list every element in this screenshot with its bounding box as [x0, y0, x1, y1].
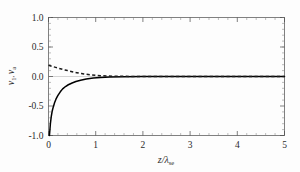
- x-axis-tick-labels: 012345: [46, 140, 287, 150]
- x-axis-title: z/λse: [157, 154, 175, 166]
- x-tick-label: 4: [235, 140, 240, 150]
- chart-canvas: 012345 -1.0-0.50.00.51.0 z/λse v1, va: [0, 0, 300, 172]
- x-tick-label: 0: [46, 140, 51, 150]
- figure-container: 012345 -1.0-0.50.00.51.0 z/λse v1, va: [0, 0, 300, 172]
- y-tick-label: 1.0: [32, 13, 44, 23]
- y-tick-label: -1.0: [28, 131, 43, 141]
- y-tick-label: 0.0: [32, 72, 44, 82]
- series-v-a: [49, 65, 285, 76]
- data-series-group: [49, 65, 285, 135]
- svg-text:v1, va: v1, va: [5, 67, 17, 85]
- x-tick-label: 1: [93, 140, 98, 150]
- y-tick-label: -0.5: [28, 101, 43, 111]
- x-tick-label: 3: [188, 140, 193, 150]
- y-tick-label: 0.5: [32, 42, 44, 52]
- x-tick-label: 2: [141, 140, 146, 150]
- y-axis-tick-labels: -1.0-0.50.00.51.0: [28, 13, 43, 141]
- svg-text:z/λse: z/λse: [157, 154, 175, 166]
- y-axis-title: v1, va: [5, 67, 17, 85]
- series-v-1: [49, 77, 284, 136]
- x-tick-label: 5: [282, 140, 287, 150]
